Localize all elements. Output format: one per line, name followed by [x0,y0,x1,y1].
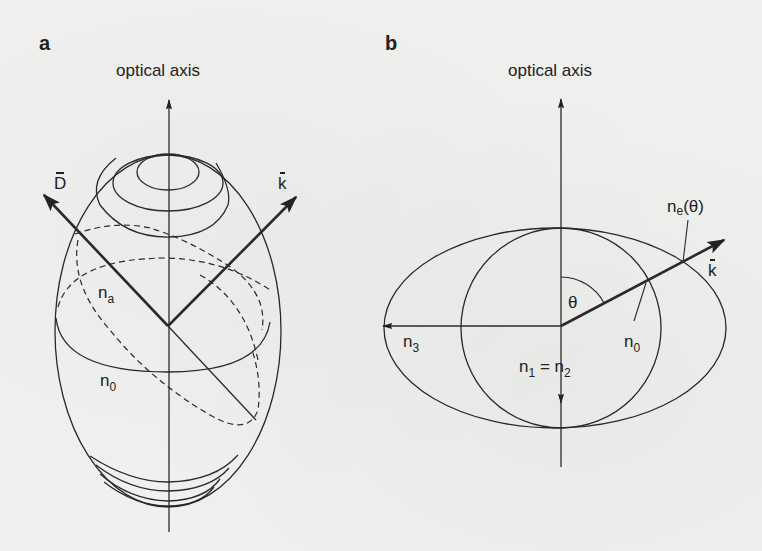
bottom-ring-1 [90,455,238,482]
optical-axis-label-a: optical axis [116,62,200,79]
panel-a-indicatrix [44,100,296,532]
vector-k-symbol-a: k [278,175,287,192]
panel-letter-b: b [385,33,397,53]
label-ne-sub: e [676,204,683,218]
vector-D-label: D [54,175,66,192]
latitude-ring-1 [137,154,199,190]
ne-theta-leader [683,220,688,262]
latitude-ring-2 [113,155,223,211]
label-na: na [98,284,114,301]
n0-leader-b [634,283,646,321]
label-n3-sub: 3 [412,341,419,355]
vector-k-symbol-b: k [708,262,717,279]
vector-D-symbol: D [54,175,66,192]
label-equals: = [535,357,554,376]
label-n0-a: n0 [100,372,116,389]
diagram-canvas [0,0,762,551]
bottom-ring-3 [100,474,220,501]
na-section-dashed [58,258,270,307]
label-n0-b-sub: 0 [633,341,640,355]
index-ellipsoid-outline [55,155,281,507]
label-n2-sub: 2 [564,366,571,380]
label-n1-sub: 1 [528,366,535,380]
vector-k-arrow-a [168,197,296,326]
tilted-section-dashed-front [77,240,259,425]
vector-k-label-a: k [278,175,287,192]
label-ne-arg: (θ) [683,197,704,216]
panel-letter-a: a [39,33,50,53]
equator-front [56,318,270,372]
optical-axis-label-b: optical axis [508,62,592,79]
theta-label: θ [568,294,577,311]
label-ne-theta: ne(θ) [667,198,704,215]
figure-page: a optical axis D k na n0 b optical axis … [0,0,762,551]
label-n1-equals-n2: n1 = n2 [519,358,571,375]
bottom-ring-4 [104,482,214,506]
label-n2-main: n [555,357,564,376]
label-n3: n3 [403,333,419,350]
label-n0-a-sub: 0 [109,380,116,394]
extraordinary-index-ellipse [384,228,726,428]
label-n0-b: n0 [624,333,640,350]
panel-b-index-surfaces [383,99,726,467]
label-na-sub: a [107,292,114,306]
vector-k-label-b: k [708,262,717,279]
back-dashed-arc [200,275,258,360]
vector-D-arrow [44,195,168,326]
d-continuation-line [168,326,256,420]
